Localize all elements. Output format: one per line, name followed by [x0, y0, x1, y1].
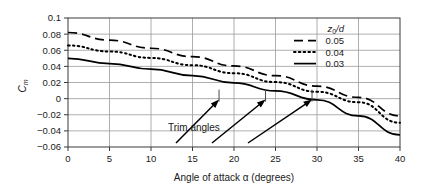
chart-figure: Trim angles 0.10.080.060.040.020−0.02−0.…	[0, 0, 426, 191]
x-tick-label: 35	[353, 153, 364, 164]
x-axis-title: Angle of attack α (degrees)	[174, 172, 294, 183]
x-tick-label: 25	[270, 153, 281, 164]
x-tick-label: 30	[312, 153, 323, 164]
legend-label-0.03: 0.03	[326, 58, 345, 69]
legend-title: z0/d	[326, 23, 344, 35]
y-tick-label: −0.04	[37, 125, 61, 136]
x-tick-label: 0	[65, 153, 70, 164]
y-tick-label: 0	[56, 93, 61, 104]
y-tick-label: −0.02	[37, 109, 61, 120]
y-tick-label: −0.06	[37, 141, 61, 152]
x-tick-label: 20	[229, 153, 240, 164]
x-tick-label: 40	[395, 153, 406, 164]
y-tick-label: 0.1	[48, 12, 61, 23]
x-tick-label: 10	[146, 153, 157, 164]
y-tick-label: 0.04	[43, 61, 62, 72]
x-tick-label: 5	[107, 153, 112, 164]
x-tick-label: 15	[187, 153, 198, 164]
x-axis-title-text: Angle of attack α (degrees)	[174, 172, 294, 183]
legend-label-0.05: 0.05	[326, 35, 345, 46]
legend-label-0.04: 0.04	[326, 47, 345, 58]
legend-title-over-d: /d	[335, 23, 345, 34]
y-axis-title-sub: m	[22, 79, 29, 85]
y-tick-label: 0.06	[43, 45, 62, 56]
trim-angles-label: Trim angles	[168, 122, 220, 133]
y-tick-label: 0.02	[43, 77, 62, 88]
y-tick-label: 0.08	[43, 29, 62, 40]
pitching-moment-chart: Trim angles 0.10.080.060.040.020−0.02−0.…	[0, 0, 426, 191]
